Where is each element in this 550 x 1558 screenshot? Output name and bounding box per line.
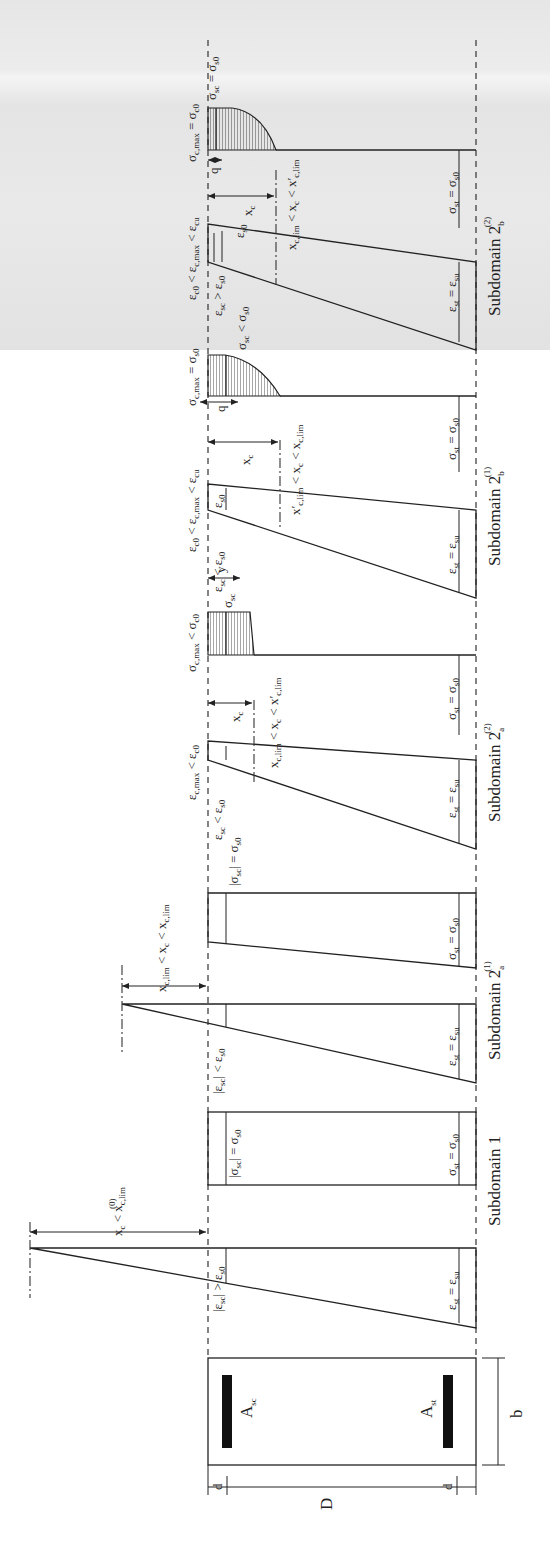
panel-subdomain-2a2: εc,max < εc0 εsc < εs0 εst = εsu xc,lim …	[184, 566, 506, 849]
strain-top-label: εc0 < εc,max < εcu	[184, 469, 201, 552]
na-condition-label: x′c,lim < xc < xc,lim	[288, 424, 305, 515]
tension-steel-bar	[443, 1375, 453, 1448]
stress-block	[208, 893, 476, 968]
na-condition-label: xc,lim < xc < x′c,lim	[284, 159, 301, 250]
panel-title: Subdomain 2a(1)	[482, 961, 506, 1060]
panel-title: Subdomain 2a(2)	[482, 723, 506, 822]
strain-bottom-label: εst = εsu	[444, 535, 461, 574]
stress-top-label: |σsc| = σs0	[226, 837, 243, 886]
cover-bottom-label: d	[440, 1483, 455, 1490]
strain-stress-domain-diagram: Asc Ast D d d b xc < xc,lim(0) |εsc| > ε…	[0, 0, 550, 1558]
compression-steel-bar	[222, 1375, 232, 1448]
cover-top-label: d	[210, 1483, 225, 1490]
stress-top-label: σc,max < σc0	[184, 613, 201, 672]
panel-title: Subdomain 1	[485, 1136, 504, 1226]
strain-profile	[30, 1248, 476, 1328]
stress-bottom-label: σst = σs0	[444, 678, 461, 720]
panel-subdomain-2b1: εc0 < εc,max < εcu εsc < εs0 εs0 εst = ε…	[184, 306, 506, 598]
panel-subdomain-1: xc < xc,lim(0) |εsc| > εs0 εst = εsu |σs…	[30, 1112, 504, 1328]
q-label: q	[213, 405, 228, 412]
strain-marker-label: εs0	[210, 494, 227, 508]
panel-title: Subdomain 2b(2)	[482, 217, 506, 316]
panel-subdomain-2b2: εc0 < εc,max < εcu εsc > εs0 εs0 εst = ε…	[184, 56, 506, 350]
stress-block-hatched	[208, 612, 254, 655]
xc-label: xc	[228, 712, 245, 723]
strain-steel-label: εsc < εs0	[210, 799, 227, 840]
na-condition-label: xc < xc,lim(0)	[107, 1187, 127, 1236]
strain-bottom-label: εst = εsu	[444, 1027, 461, 1066]
stress-block	[208, 1112, 476, 1185]
cross-section: Asc Ast D d d b	[208, 1358, 526, 1510]
stress-bottom-label: σst = σs0	[444, 172, 461, 214]
strain-top-label: |εsc| > εs0	[210, 1266, 227, 1312]
q-label: q	[206, 167, 221, 174]
stress-steel-label: σsc	[220, 593, 237, 608]
strain-steel-label: εsc < εs0	[210, 551, 227, 592]
panel-title: Subdomain 2b(1)	[482, 467, 506, 566]
panel-subdomain-2a1: xc,lim < xc < xc,lim |εsc| < εs0 εst = ε…	[122, 837, 506, 1094]
stress-bottom-label: σst = σs0	[444, 418, 461, 460]
strain-bottom-label: εst = εsu	[444, 779, 461, 818]
stress-steel-label: σsc < σs0	[234, 306, 251, 350]
depth-label: D	[317, 1498, 336, 1510]
xc-label: xc	[240, 206, 257, 217]
na-condition-label: xc,lim < xc < xc,lim	[154, 904, 171, 992]
strain-top-label: εc,max < εc0	[184, 744, 201, 800]
width-label: b	[507, 1410, 526, 1419]
stress-block-hatched	[208, 355, 280, 396]
strain-bottom-label: εst = εsu	[444, 1271, 461, 1310]
na-condition-label: xc,lim < xc < x′c,lim	[266, 677, 283, 768]
stress-top-label: |σsc| = σs0	[226, 1129, 243, 1178]
strain-bottom-label: εst = εsu	[444, 273, 461, 312]
strain-profile	[122, 1004, 476, 1083]
stress-top-label: σc,max = σs0	[184, 348, 201, 406]
stress-steel-label: σsc = σs0	[204, 56, 221, 100]
strain-marker-label: εs0	[232, 224, 249, 238]
xc-label: xc	[238, 455, 255, 466]
strain-profile	[208, 741, 476, 849]
strain-profile	[208, 484, 476, 598]
strain-top-label: |εsc| < εs0	[210, 1048, 227, 1094]
ast-label: Ast	[417, 1399, 438, 1418]
stress-bottom-label: σst = σs0	[444, 918, 461, 960]
stress-block-hatched	[208, 108, 276, 150]
asc-label: Asc	[237, 1398, 258, 1418]
strain-top-label: εc0 < εc,max < εcu	[184, 217, 201, 300]
stress-top-label: σc,max = σc0	[184, 103, 201, 162]
stress-bottom-label: σst = σs0	[444, 1134, 461, 1176]
strain-steel-label: εsc > εs0	[210, 275, 227, 316]
